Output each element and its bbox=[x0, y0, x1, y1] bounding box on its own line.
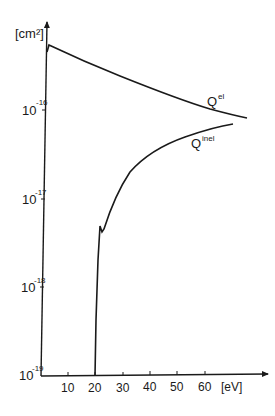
x-tick-label-50: 50 bbox=[170, 380, 184, 394]
x-tick-label-60: 60 bbox=[198, 380, 212, 394]
x-axis-label: [eV] bbox=[221, 380, 242, 394]
svg-text:-16: -16 bbox=[36, 98, 48, 107]
x-tick-label-20: 20 bbox=[88, 381, 102, 395]
x-tick-label-30: 30 bbox=[116, 381, 130, 395]
series-q-inel-curve bbox=[95, 124, 233, 376]
series-label-q-el: Q el bbox=[207, 92, 224, 109]
series-label-q-inel: Q inel bbox=[191, 134, 215, 151]
x-tick-label-40: 40 bbox=[143, 380, 157, 394]
y-axis-label: [cm²] bbox=[15, 26, 44, 41]
cross-section-chart: [cm²] 10 -16 10 -17 10 -18 10 -19 10 20 … bbox=[0, 0, 275, 416]
x-axis bbox=[41, 374, 268, 376]
svg-text:Q: Q bbox=[191, 136, 201, 151]
y-tick-label-0: 10 -16 bbox=[22, 98, 48, 118]
svg-text:inel: inel bbox=[202, 134, 215, 143]
svg-text:-19: -19 bbox=[32, 364, 44, 373]
svg-text:el: el bbox=[218, 92, 224, 101]
svg-text:Q: Q bbox=[207, 94, 217, 109]
svg-text:-17: -17 bbox=[35, 188, 47, 197]
svg-text:10: 10 bbox=[22, 103, 36, 118]
x-tick-label-10: 10 bbox=[61, 381, 75, 395]
svg-text:-18: -18 bbox=[34, 276, 46, 285]
